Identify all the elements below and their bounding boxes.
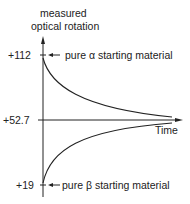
tick-label-52-7: +52.7 xyxy=(3,115,30,126)
alpha-arrow-icon xyxy=(48,53,53,57)
annotation-alpha: pure α starting material xyxy=(65,50,173,61)
x-axis-label: Time xyxy=(155,125,178,136)
beta-arrow-icon xyxy=(48,183,53,187)
tick-label-19: +19 xyxy=(16,180,34,191)
y-axis-arrow-icon xyxy=(41,36,45,44)
y-axis-label-line1: measured xyxy=(40,8,87,19)
annotation-beta: pure β starting material xyxy=(62,180,170,191)
y-axis-label-line2: optical rotation xyxy=(31,21,99,32)
x-axis-arrow-icon xyxy=(175,118,183,122)
beta-curve xyxy=(43,123,172,183)
tick-label-112: +112 xyxy=(8,50,31,61)
alpha-curve xyxy=(43,58,172,117)
